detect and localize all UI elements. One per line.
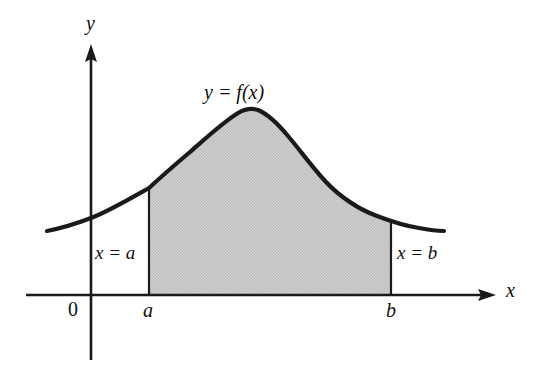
annotation-x-equals-a: x = a	[95, 243, 135, 262]
origin-label: 0	[68, 299, 78, 319]
x-axis-label: x	[506, 280, 515, 300]
figure-canvas: y x 0 a b x = a x = b y = f(x)	[0, 0, 535, 372]
diagram-svg	[0, 0, 535, 372]
shaded-area-region	[149, 109, 391, 295]
annotation-curve-equation: y = f(x)	[204, 82, 264, 102]
tick-label-b: b	[386, 300, 396, 320]
y-axis-label: y	[86, 13, 95, 33]
annotation-x-equals-b: x = b	[397, 243, 437, 262]
tick-label-a: a	[143, 300, 153, 320]
